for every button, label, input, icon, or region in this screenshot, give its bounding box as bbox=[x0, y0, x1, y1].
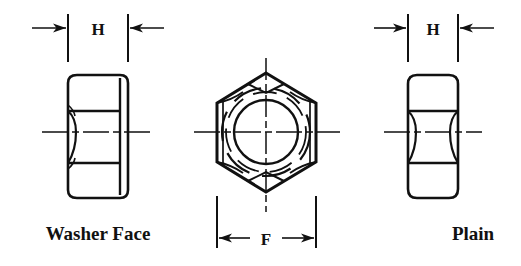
view-label-washer-face: Washer Face bbox=[46, 223, 151, 244]
dimension-label-f: F bbox=[261, 230, 271, 249]
view-label-plain: Plain bbox=[452, 223, 495, 244]
drawing-canvas: H Washer Face bbox=[0, 0, 521, 266]
dimension-label-h-left: H bbox=[91, 20, 104, 39]
dimension-label-h-right: H bbox=[426, 20, 439, 39]
technical-drawing: H Washer Face bbox=[0, 0, 521, 266]
